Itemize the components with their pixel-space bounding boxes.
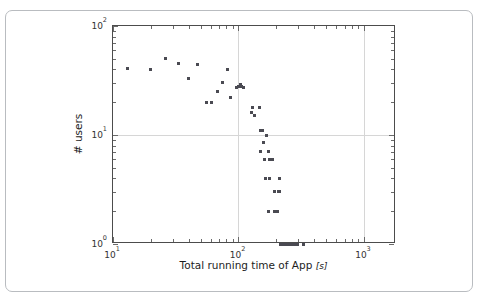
x-axis-label-unit: [s]	[316, 261, 328, 271]
data-point	[262, 141, 265, 144]
data-point	[196, 63, 199, 66]
data-point	[264, 177, 267, 180]
data-point	[278, 177, 281, 180]
y-tick-right	[391, 152, 394, 153]
x-tick	[219, 239, 220, 242]
x-tick	[151, 239, 152, 242]
x-axis-label-text: Total running time of App	[180, 259, 313, 271]
plot-area	[112, 25, 395, 243]
x-tick-label: 101	[104, 248, 120, 260]
data-point	[263, 158, 266, 161]
data-point	[242, 86, 245, 89]
data-point	[149, 68, 152, 71]
y-tick	[113, 211, 116, 212]
data-point	[259, 150, 262, 153]
y-tick	[113, 69, 116, 70]
x-tick-top	[336, 26, 337, 29]
data-point	[273, 190, 276, 193]
y-tick-right	[391, 168, 394, 169]
y-tick-right	[391, 37, 394, 38]
x-tick-top	[364, 26, 365, 31]
x-tick	[189, 239, 190, 242]
y-tick-right	[391, 192, 394, 193]
x-tick	[276, 239, 277, 242]
x-tick	[345, 239, 346, 242]
data-point	[268, 177, 271, 180]
x-tick-top	[276, 26, 277, 29]
y-tick	[113, 135, 118, 136]
y-tick	[113, 26, 118, 27]
x-tick	[211, 239, 212, 242]
y-tick-right	[391, 31, 394, 32]
x-tick-top	[298, 26, 299, 29]
y-tick-right	[391, 159, 394, 160]
y-tick	[113, 37, 116, 38]
y-tick-label: 101	[85, 128, 107, 140]
y-tick-right	[391, 146, 394, 147]
y-gridline	[113, 135, 394, 136]
y-tick	[113, 178, 116, 179]
x-gridline	[364, 26, 365, 242]
y-tick	[113, 140, 116, 141]
y-tick-right	[389, 135, 394, 136]
y-tick	[113, 59, 116, 60]
data-point	[267, 210, 270, 213]
x-tick-top	[345, 26, 346, 29]
y-tick-right	[389, 244, 394, 245]
x-tick-top	[233, 26, 234, 29]
y-axis-label: # users	[72, 114, 84, 155]
y-tick-label: 102	[85, 19, 107, 31]
data-point	[267, 150, 270, 153]
x-tick	[336, 239, 337, 242]
x-tick-top	[352, 26, 353, 29]
y-tick	[113, 152, 116, 153]
data-point	[296, 243, 299, 246]
data-point	[261, 129, 264, 132]
x-tick-label: 103	[355, 248, 371, 260]
x-tick-top	[226, 26, 227, 29]
x-tick	[113, 237, 114, 242]
x-tick	[233, 239, 234, 242]
y-tick-right	[391, 83, 394, 84]
y-tick-right	[391, 59, 394, 60]
y-tick	[113, 168, 116, 169]
data-point	[276, 210, 279, 213]
y-tick-right	[391, 178, 394, 179]
x-tick-top	[151, 26, 152, 29]
data-point	[229, 96, 232, 99]
x-tick	[364, 237, 365, 242]
x-tick-top	[211, 26, 212, 29]
data-point	[271, 158, 274, 161]
data-point	[205, 101, 208, 104]
data-point	[302, 243, 305, 246]
x-tick-label: 102	[230, 248, 246, 260]
data-point	[278, 190, 281, 193]
x-tick	[173, 239, 174, 242]
y-tick	[113, 102, 116, 103]
data-point	[210, 101, 213, 104]
y-tick-label: 100	[85, 237, 107, 249]
data-point	[177, 62, 180, 65]
x-tick-top	[201, 26, 202, 29]
x-tick	[201, 239, 202, 242]
x-tick	[358, 239, 359, 242]
x-tick-top	[189, 26, 190, 29]
data-point	[253, 114, 256, 117]
y-tick-right	[391, 211, 394, 212]
x-tick	[326, 239, 327, 242]
x-tick-top	[173, 26, 174, 29]
y-tick-right	[391, 50, 394, 51]
data-point	[265, 134, 268, 137]
data-point	[258, 106, 261, 109]
y-tick	[113, 192, 116, 193]
y-tick	[113, 83, 116, 84]
x-axis-label: Total running time of App [s]	[112, 259, 395, 271]
x-tick-top	[238, 26, 239, 31]
x-gridline	[238, 26, 239, 242]
data-point	[221, 81, 224, 84]
y-tick-right	[391, 43, 394, 44]
x-tick-top	[219, 26, 220, 29]
x-tick	[226, 239, 227, 242]
y-tick	[113, 159, 116, 160]
